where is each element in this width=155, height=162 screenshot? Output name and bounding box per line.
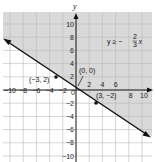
point-label-neg3-2: (−3, 2) — [29, 76, 49, 84]
y-tick-label: 4 — [70, 60, 74, 67]
point-label-3-neg2: (3, −2) — [96, 92, 116, 100]
x-tick-label: 6 — [114, 81, 118, 88]
point-neg3-2 — [54, 75, 58, 79]
y-tick-label: −6 — [66, 126, 74, 133]
y-tick-label: −2 — [66, 100, 74, 107]
x-tick-label: −8 — [19, 87, 27, 94]
y-tick-label: 10 — [66, 21, 74, 28]
svg-text:3: 3 — [133, 41, 137, 48]
y-tick-label: 2 — [70, 73, 74, 80]
inequality-graph: y −10−8−6−4−20246810 108642−2−4−6−8−10 (… — [0, 0, 155, 162]
y-axis-label: y — [72, 2, 77, 11]
x-tick-label: 0 — [71, 89, 75, 96]
y-tick-label: −8 — [66, 139, 74, 146]
point-3-neg2 — [94, 101, 98, 105]
x-tick-label: 8 — [129, 92, 133, 99]
point-label-origin: (0, 0) — [79, 67, 95, 75]
x-tick-label: −2 — [59, 87, 67, 94]
y-tick-label: −10 — [62, 153, 74, 160]
svg-text:y ≥ −: y ≥ − — [107, 38, 122, 46]
svg-text:2: 2 — [133, 33, 137, 40]
y-tick-label: 8 — [70, 34, 74, 41]
x-tick-label: −4 — [46, 87, 54, 94]
x-tick-label: 10 — [140, 92, 148, 99]
x-tick-label: −10 — [4, 87, 16, 94]
y-tick-label: −4 — [66, 113, 74, 120]
y-tick-label: 6 — [70, 47, 74, 54]
svg-text:x: x — [138, 38, 143, 45]
x-tick-label: 2 — [87, 81, 91, 88]
x-tick-label: −6 — [32, 87, 40, 94]
x-tick-label: 4 — [100, 81, 104, 88]
